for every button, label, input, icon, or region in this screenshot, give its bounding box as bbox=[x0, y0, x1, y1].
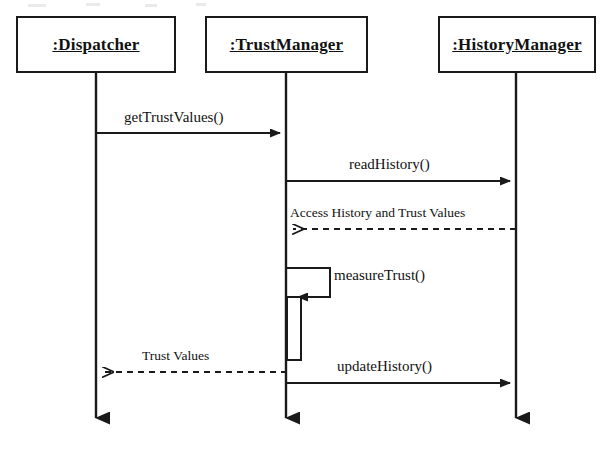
message-label-measure-trust: measureTrust() bbox=[334, 268, 425, 283]
message-label-get-trust-values: getTrustValues() bbox=[124, 110, 223, 125]
activation-bar-trustmanager bbox=[287, 297, 301, 360]
message-label-access-history-and-trust-values: Access History and Trust Values bbox=[290, 206, 465, 220]
participant-label-dispatcher: :Dispatcher bbox=[52, 35, 139, 55]
sequence-diagram-canvas: :Dispatcher :TrustManager :HistoryManage… bbox=[0, 0, 612, 450]
message-label-update-history: updateHistory() bbox=[337, 359, 432, 374]
participant-box-dispatcher[interactable]: :Dispatcher bbox=[16, 16, 176, 73]
participant-label-trustmanager: :TrustManager bbox=[230, 35, 344, 55]
message-arrow-measure-trust bbox=[287, 268, 330, 297]
participant-box-historymanager[interactable]: :HistoryManager bbox=[438, 16, 596, 73]
message-label-read-history: readHistory() bbox=[349, 157, 430, 172]
participant-label-historymanager: :HistoryManager bbox=[452, 35, 582, 55]
message-label-trust-values: Trust Values bbox=[142, 349, 209, 363]
participant-box-trustmanager[interactable]: :TrustManager bbox=[205, 16, 368, 73]
